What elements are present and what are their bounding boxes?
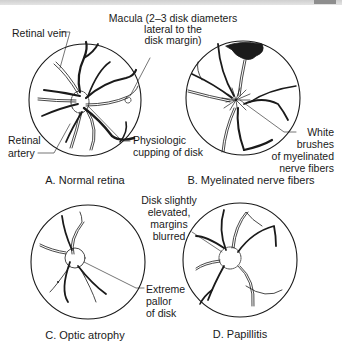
label-pallor-line2: pallor bbox=[146, 295, 172, 307]
label-white-line1: White bbox=[262, 126, 334, 138]
caption-myelinated-nerve-fibers: B. Myelinated nerve fibers bbox=[176, 174, 326, 187]
label-pallor-line3: of disk bbox=[146, 307, 176, 319]
label-disk-line1: Disk slightly bbox=[124, 194, 214, 206]
label-white-line2: brushes bbox=[262, 138, 334, 150]
label-retinal-artery-line2: artery bbox=[8, 147, 35, 159]
caption-normal-retina: A. Normal retina bbox=[20, 174, 150, 187]
label-white-line3: of myelinated bbox=[262, 150, 334, 162]
label-cupping-line2: cupping of disk bbox=[133, 146, 203, 158]
label-retinal-artery-line1: Retinal bbox=[8, 134, 41, 146]
label-disk-line3: margins bbox=[124, 218, 214, 230]
label-disk-line2: elevated, bbox=[124, 206, 214, 218]
fundus-normal-retina bbox=[29, 32, 150, 156]
label-cupping-line1: Physiologic bbox=[133, 134, 186, 146]
label-pallor-line1: Extreme bbox=[146, 283, 185, 295]
label-retinal-vein: Retinal vein bbox=[12, 27, 67, 39]
label-macula-line3: disk margin) bbox=[103, 34, 243, 46]
label-white-line4: nerve fibers bbox=[262, 162, 334, 174]
caption-optic-atrophy: C. Optic atrophy bbox=[20, 329, 150, 342]
label-disk-line4: blurred bbox=[124, 230, 214, 242]
caption-papillitis: D. Papillitis bbox=[190, 328, 290, 341]
